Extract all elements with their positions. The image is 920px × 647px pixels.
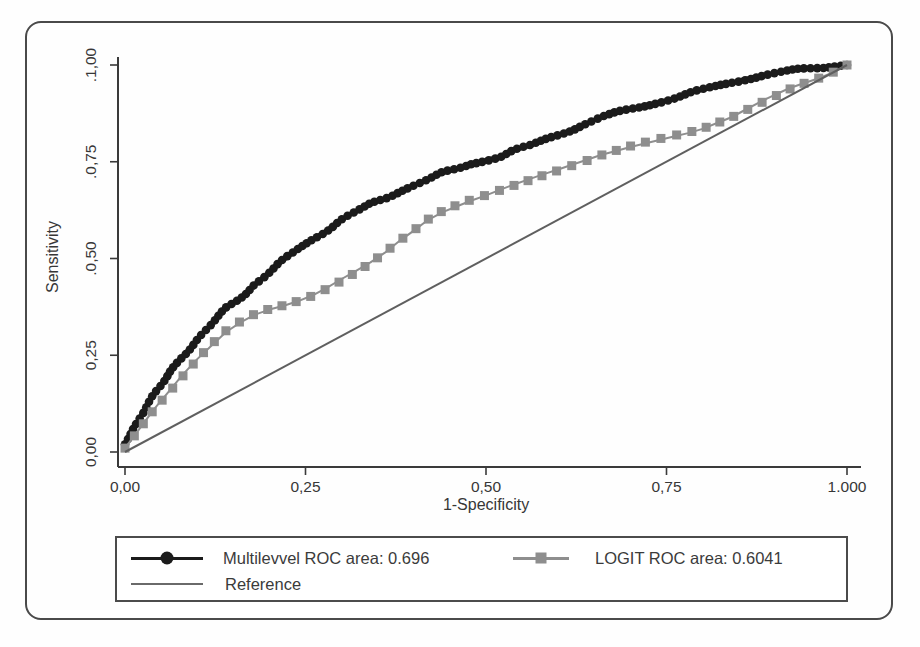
- square-marker-icon: [179, 371, 188, 380]
- square-marker-icon: [641, 138, 650, 147]
- square-marker-icon: [424, 215, 433, 224]
- square-marker-icon: [148, 407, 157, 416]
- square-marker-icon: [687, 127, 696, 136]
- y-tick-label: .1,00: [82, 47, 99, 82]
- x-tick-label: 0,00: [110, 478, 141, 495]
- square-marker-icon: [348, 270, 357, 279]
- square-marker-icon: [626, 142, 635, 151]
- x-tick-label: 0,50: [471, 478, 502, 495]
- square-marker-icon: [373, 253, 382, 262]
- square-marker-icon: [715, 118, 724, 127]
- square-marker-icon: [656, 134, 665, 143]
- square-marker-icon: [480, 191, 489, 200]
- square-marker-icon: [597, 150, 606, 159]
- multilevel-line: [125, 65, 847, 444]
- square-marker-icon: [386, 244, 395, 253]
- square-marker-icon: [672, 130, 681, 139]
- multilevel-legend-sample: [131, 548, 203, 568]
- y-tick-label: .0,50: [82, 241, 99, 276]
- square-marker-icon: [772, 91, 781, 100]
- square-marker-icon: [189, 360, 198, 369]
- logit-legend-sample: [513, 548, 569, 568]
- square-marker-icon: [263, 305, 272, 314]
- legend-item-reference: Reference: [131, 573, 301, 595]
- square-marker-icon: [509, 181, 518, 190]
- y-tick-label: 0,25: [82, 340, 99, 370]
- square-marker-icon: [495, 186, 504, 195]
- x-tick-label: 0,25: [290, 478, 320, 495]
- legend-item-multilevel: Multilevvel ROC area: 0.696: [131, 547, 429, 569]
- square-marker-icon: [612, 146, 621, 155]
- square-marker-icon: [361, 262, 370, 271]
- square-marker-icon: [758, 98, 767, 107]
- square-marker-icon: [450, 201, 459, 210]
- square-marker-icon: [743, 105, 752, 114]
- circle-marker-icon: [161, 552, 174, 565]
- square-marker-icon: [235, 318, 244, 327]
- square-marker-icon: [292, 297, 301, 306]
- reference-sample-line: [131, 583, 203, 585]
- square-marker-icon: [465, 196, 474, 205]
- legend-label-reference: Reference: [225, 575, 301, 594]
- square-marker-icon: [786, 84, 795, 93]
- square-marker-icon: [583, 156, 592, 165]
- x-axis-title: 1-Specificity: [443, 496, 529, 514]
- multilevel-roc-curve: [121, 61, 852, 449]
- square-marker-icon: [552, 166, 561, 175]
- square-marker-icon: [249, 310, 258, 319]
- square-marker-icon: [524, 176, 533, 185]
- x-tick-label: 1.000: [828, 478, 867, 495]
- square-marker-icon: [130, 431, 139, 440]
- square-marker-icon: [537, 171, 546, 180]
- square-marker-icon: [210, 337, 219, 346]
- reference-legend-sample: [131, 574, 203, 594]
- legend-item-logit: LOGIT ROC area: 0.6041: [513, 547, 783, 569]
- square-marker-icon: [567, 161, 576, 170]
- square-marker-icon: [139, 419, 148, 428]
- legend-label-logit: LOGIT ROC area: 0.6041: [595, 549, 783, 568]
- square-marker-icon: [335, 278, 344, 287]
- square-marker-icon: [536, 553, 547, 564]
- square-marker-icon: [437, 207, 446, 216]
- figure-canvas: 0,000,250,500,751.0000,000,25.0,50.0,75.…: [0, 0, 920, 647]
- legend-label-multilevel: Multilevvel ROC area: 0.696: [223, 549, 429, 568]
- square-marker-icon: [199, 348, 208, 357]
- square-marker-icon: [306, 292, 315, 301]
- logit-roc-curve: [121, 61, 852, 453]
- square-marker-icon: [729, 112, 738, 121]
- square-marker-icon: [702, 123, 711, 132]
- square-marker-icon: [221, 326, 230, 335]
- square-marker-icon: [158, 396, 167, 405]
- square-marker-icon: [411, 224, 420, 233]
- legend-box: Multilevvel ROC area: 0.696 LOGIT ROC ar…: [115, 536, 848, 602]
- y-axis-title: Sensitivity: [44, 221, 62, 293]
- reference-roc-curve: [125, 65, 847, 452]
- square-marker-icon: [277, 301, 286, 310]
- y-tick-label: 0,00: [82, 437, 99, 468]
- square-marker-icon: [398, 234, 407, 243]
- square-marker-icon: [168, 384, 177, 393]
- square-marker-icon: [321, 285, 330, 294]
- y-tick-label: .0,75: [82, 145, 99, 179]
- x-tick-label: 0,75: [651, 478, 681, 495]
- reference-line: [125, 65, 847, 452]
